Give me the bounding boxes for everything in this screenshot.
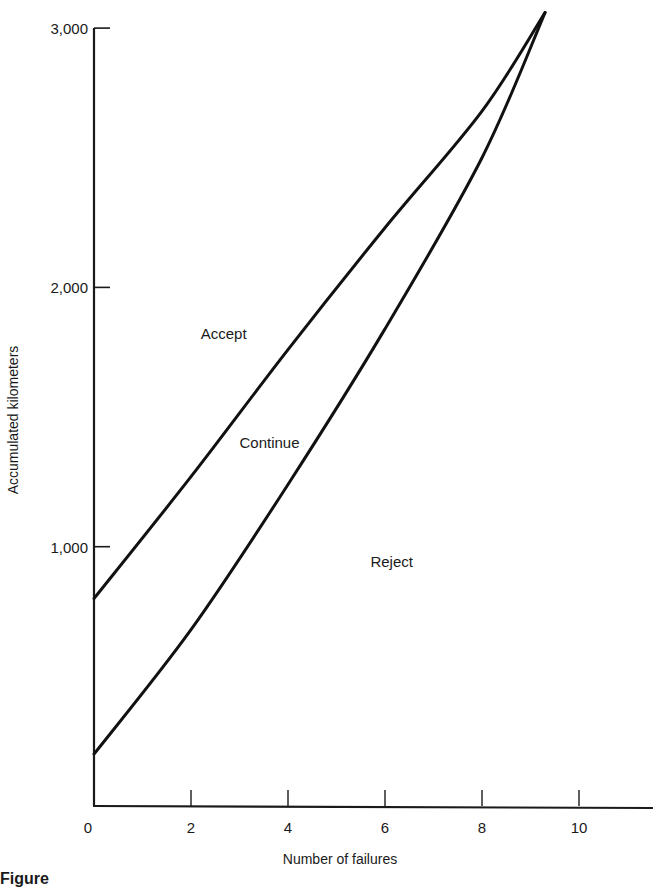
region-label-accept: Accept bbox=[201, 325, 248, 342]
figure-caption: Figure bbox=[0, 870, 49, 888]
accept-boundary-line bbox=[94, 13, 545, 599]
series-lines bbox=[94, 13, 545, 755]
x-tick-label: 6 bbox=[381, 819, 389, 836]
y-tick-label: 2,000 bbox=[50, 279, 88, 296]
x-tick-label: 2 bbox=[187, 819, 195, 836]
x-tick-label: 8 bbox=[478, 819, 486, 836]
axes bbox=[93, 28, 653, 808]
x-tick-label: 10 bbox=[571, 819, 588, 836]
y-tick-label: 3,000 bbox=[50, 20, 88, 37]
y-axis-title: Accumulated kilometers bbox=[5, 346, 21, 495]
x-axis-title: Number of failures bbox=[283, 851, 397, 867]
y-tick-label: 1,000 bbox=[50, 539, 88, 556]
annotations: AcceptContinueReject bbox=[201, 325, 414, 570]
region-label-reject: Reject bbox=[370, 553, 413, 570]
ticks: 1,0002,0003,0000246810 bbox=[50, 20, 587, 836]
x-tick-label: 4 bbox=[284, 819, 292, 836]
reject-boundary-line bbox=[94, 13, 545, 755]
x-tick-label: 0 bbox=[84, 819, 92, 836]
region-label-continue: Continue bbox=[240, 434, 300, 451]
x-axis-line bbox=[93, 806, 653, 808]
